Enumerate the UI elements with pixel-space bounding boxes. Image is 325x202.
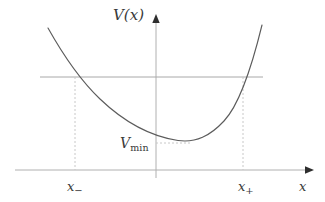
x-plus-label-subscript: + <box>245 185 253 196</box>
x-plus-label: x+ <box>238 180 254 196</box>
vmin-label: Vmin <box>120 136 149 152</box>
x-axis-arrow-icon <box>305 166 314 174</box>
potential-curve <box>48 25 262 141</box>
vmin-label-main: V <box>120 135 130 151</box>
v-axis-label: V(x) <box>113 8 144 23</box>
x-minus-label: x− <box>67 180 83 196</box>
x-minus-label-subscript: − <box>74 185 82 196</box>
plot-canvas <box>0 0 325 202</box>
v-axis-arrow-icon <box>152 14 159 23</box>
potential-well-figure: V(x) Vmin x− x+ x <box>0 0 325 202</box>
vmin-label-subscript: min <box>130 142 149 153</box>
x-axis-label: x <box>299 180 306 193</box>
